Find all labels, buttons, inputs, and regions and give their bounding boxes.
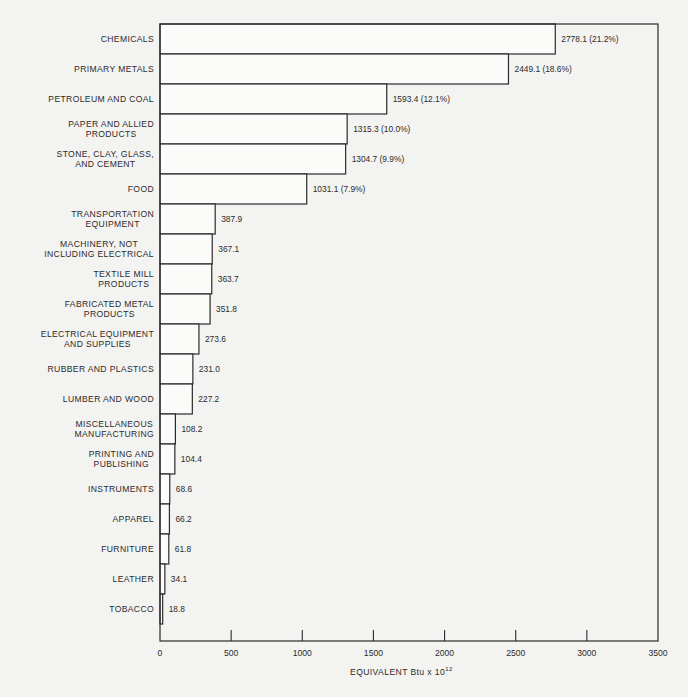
- value-label: 363.7: [218, 274, 239, 284]
- bar: [160, 114, 347, 144]
- category-label: APPAREL: [113, 514, 154, 524]
- value-label: 1304.7 (9.9%): [352, 154, 405, 164]
- category-label: PRODUCTS: [98, 279, 149, 289]
- value-label: 34.1: [171, 574, 188, 584]
- value-label: 61.8: [175, 544, 192, 554]
- x-tick-label: 3500: [648, 648, 667, 658]
- x-tick-label: 3000: [577, 648, 596, 658]
- category-label: PRODUCTS: [84, 309, 135, 319]
- x-tick-label: 2500: [506, 648, 525, 658]
- value-label: 351.8: [216, 304, 237, 314]
- value-label: 367.1: [218, 244, 239, 254]
- x-axis-title-text: EQUIVALENT Btu x 10: [350, 667, 445, 677]
- value-label: 1593.4 (12.1%): [393, 94, 450, 104]
- category-label: INCLUDING ELECTRICAL: [44, 249, 154, 259]
- category-label: PRIMARY METALS: [74, 64, 154, 74]
- category-label: AND CEMENT: [75, 159, 136, 169]
- bar: [160, 204, 215, 234]
- bar: [160, 354, 193, 384]
- bar: [160, 414, 175, 444]
- category-label: AND SUPPLIES: [64, 339, 131, 349]
- x-tick-label: 1000: [293, 648, 312, 658]
- x-tick-label: 0: [158, 648, 163, 658]
- category-label: MACHINERY, NOT: [60, 239, 139, 249]
- bar: [160, 384, 192, 414]
- category-label: INSTRUMENTS: [88, 484, 154, 494]
- bar: [160, 144, 346, 174]
- value-label: 273.6: [205, 334, 226, 344]
- value-label: 104.4: [181, 454, 202, 464]
- bar: [160, 294, 210, 324]
- bar: [160, 174, 307, 204]
- value-label: 18.8: [169, 604, 186, 614]
- bar: [160, 264, 212, 294]
- bar: [160, 324, 199, 354]
- category-label: TRANSPORTATION: [71, 209, 154, 219]
- category-label: PUBLISHING: [94, 459, 150, 469]
- x-tick-label: 1500: [364, 648, 383, 658]
- category-label: LEATHER: [113, 574, 154, 584]
- category-label: PRINTING AND: [89, 449, 154, 459]
- x-tick-label: 2000: [435, 648, 454, 658]
- bars-layer: [160, 24, 555, 624]
- value-label: 227.2: [198, 394, 219, 404]
- x-axis-title-superscript: 12: [445, 666, 453, 672]
- category-label: FOOD: [128, 184, 154, 194]
- bar: [160, 444, 175, 474]
- bar: [160, 504, 169, 534]
- value-label: 66.2: [175, 514, 192, 524]
- category-label: PETROLEUM AND COAL: [48, 94, 154, 104]
- category-label: EQUIPMENT: [86, 219, 141, 229]
- bar: [160, 54, 508, 84]
- category-labels: CHEMICALSPRIMARY METALSPETROLEUM AND COA…: [41, 34, 155, 614]
- bar: [160, 84, 387, 114]
- bar: [160, 474, 170, 504]
- value-label: 2449.1 (18.6%): [514, 64, 571, 74]
- bar: [160, 24, 555, 54]
- category-label: MISCELLANEOUS: [75, 419, 153, 429]
- category-label: ELECTRICAL EQUIPMENT: [41, 329, 155, 339]
- category-label: RUBBER AND PLASTICS: [48, 364, 154, 374]
- category-label: LUMBER AND WOOD: [63, 394, 154, 404]
- bar: [160, 534, 169, 564]
- category-label: MANUFACTURING: [74, 429, 154, 439]
- category-label: TEXTILE MILL: [93, 269, 154, 279]
- bar: [160, 564, 165, 594]
- x-axis-title: EQUIVALENT Btu x 1012: [350, 666, 453, 677]
- category-label: FABRICATED METAL: [65, 299, 154, 309]
- value-label: 2778.1 (21.2%): [561, 34, 618, 44]
- value-label: 68.6: [176, 484, 193, 494]
- category-label: PAPER AND ALLIED: [68, 119, 154, 129]
- value-label: 1315.3 (10.0%): [353, 124, 410, 134]
- x-axis: 0500100015002000250030003500: [158, 630, 668, 658]
- industry-energy-bar-chart: CHEMICALSPRIMARY METALSPETROLEUM AND COA…: [0, 0, 688, 697]
- value-label: 1031.1 (7.9%): [313, 184, 366, 194]
- value-label: 231.0: [199, 364, 220, 374]
- value-label: 108.2: [181, 424, 202, 434]
- category-label: STONE, CLAY, GLASS,: [57, 149, 154, 159]
- category-label: CHEMICALS: [101, 34, 154, 44]
- x-tick-label: 500: [224, 648, 239, 658]
- category-label: PRODUCTS: [86, 129, 137, 139]
- value-label: 387.9: [221, 214, 242, 224]
- category-label: TOBACCO: [109, 604, 154, 614]
- bar: [160, 234, 212, 264]
- category-label: FURNITURE: [101, 544, 154, 554]
